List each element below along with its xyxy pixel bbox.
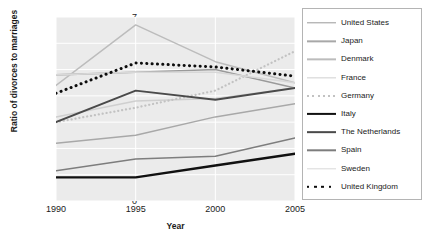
legend-item-italy[interactable]: Italy	[307, 105, 417, 123]
legend-swatch-icon	[307, 17, 336, 29]
x-tick-label: 1995	[113, 205, 159, 214]
legend-swatch-icon	[307, 126, 336, 138]
line-chart-figure: Ratio of divorces to marriages .7 .6 .5 …	[0, 0, 431, 238]
legend-item-label: United States	[341, 19, 389, 27]
legend-swatch-icon	[307, 181, 336, 193]
series-line	[56, 88, 295, 122]
legend-swatch-icon	[307, 144, 336, 156]
series-line	[56, 88, 295, 117]
series-lines	[56, 25, 295, 177]
series-line	[56, 51, 295, 122]
plot-svg	[56, 17, 295, 201]
legend-item-label: The Netherlands	[341, 128, 400, 136]
legend-item-united-states[interactable]: United States	[307, 14, 417, 32]
legend-item-label: Japan	[341, 37, 363, 45]
chart-legend: United States Japan Denmark France Germa…	[302, 8, 422, 200]
y-axis-title: Ratio of divorces to marriages	[9, 0, 19, 163]
legend-swatch-icon	[307, 72, 336, 84]
x-tick-label: 1990	[33, 205, 79, 214]
legend-item-united-kingdom[interactable]: United Kingdom	[307, 178, 417, 196]
legend-item-label: Germany	[341, 92, 374, 100]
x-tick-label: 2000	[192, 205, 238, 214]
legend-swatch-icon	[307, 90, 336, 102]
series-line	[56, 25, 295, 85]
legend-item-label: Sweden	[341, 165, 370, 173]
legend-item-denmark[interactable]: Denmark	[307, 50, 417, 68]
legend-item-label: France	[341, 74, 366, 82]
legend-swatch-icon	[307, 35, 336, 47]
legend-item-label: Denmark	[341, 55, 373, 63]
legend-swatch-icon	[307, 53, 336, 65]
x-tick-label: 2005	[272, 205, 318, 214]
legend-swatch-icon	[307, 163, 336, 175]
legend-item-japan[interactable]: Japan	[307, 32, 417, 50]
legend-item-label: Spain	[341, 146, 361, 154]
legend-item-sweden[interactable]: Sweden	[307, 160, 417, 178]
plot-area	[56, 17, 295, 201]
legend-item-germany[interactable]: Germany	[307, 87, 417, 105]
series-line	[56, 138, 295, 171]
legend-item-spain[interactable]: Spain	[307, 141, 417, 159]
legend-item-the-netherlands[interactable]: The Netherlands	[307, 123, 417, 141]
legend-item-label: United Kingdom	[341, 183, 398, 191]
legend-swatch-icon	[307, 108, 336, 120]
legend-item-label: Italy	[341, 110, 356, 118]
legend-item-france[interactable]: France	[307, 69, 417, 87]
x-axis-title: Year	[56, 221, 295, 231]
